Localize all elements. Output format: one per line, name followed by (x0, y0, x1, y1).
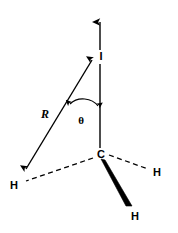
atom-label-iodine: I (99, 50, 102, 62)
molecular-diagram-canvas: I C H H H R θ (0, 0, 178, 233)
atom-label-hydrogen-right: H (153, 166, 161, 178)
atom-label-hydrogen-front: H (131, 210, 139, 222)
atom-label-carbon: C (97, 148, 105, 160)
angle-label-theta: θ (78, 114, 84, 126)
bond-carbon-hydrogen-left (26, 158, 93, 181)
molecular-diagram-figure: I C H H H R θ (0, 0, 178, 233)
bond-carbon-hydrogen-front-wedge (101, 159, 132, 206)
atom-label-hydrogen-left: H (10, 179, 18, 191)
vector-label-r: R (40, 107, 49, 121)
theta-angle-arc (70, 99, 98, 106)
bond-carbon-hydrogen-right (109, 155, 148, 169)
theta-arc-path (70, 99, 98, 106)
